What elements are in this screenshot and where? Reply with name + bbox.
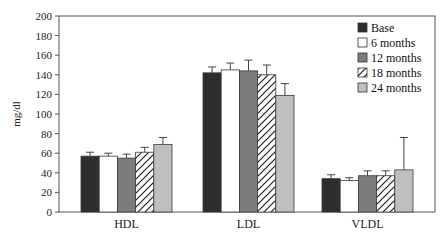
bar-chart: 020406080100120140160180200 HDLLDLVLDL B… — [0, 0, 443, 236]
bar-ldl-18-months — [258, 75, 276, 212]
y-tick-label: 0 — [47, 206, 53, 218]
bar-hdl-24-months — [154, 144, 172, 212]
y-tick-label: 80 — [41, 128, 53, 140]
y-tick-label: 60 — [41, 147, 53, 159]
bar-ldl-base — [203, 73, 221, 212]
bar-ldl-24-months — [276, 95, 294, 212]
legend-label: 24 months — [371, 81, 422, 95]
bar-vldl-18-months — [377, 176, 395, 212]
legend-label: 6 months — [371, 36, 416, 50]
bar-vldl-6-months — [340, 181, 358, 212]
legend-swatch — [358, 23, 367, 32]
x-category-label: VLDL — [352, 217, 384, 231]
x-category-label: LDL — [237, 217, 260, 231]
bar-hdl-6-months — [99, 156, 117, 212]
legend-swatch — [358, 68, 367, 77]
bar-vldl-base — [322, 179, 340, 212]
y-tick-label: 160 — [36, 49, 53, 61]
y-tick-label: 180 — [36, 30, 53, 42]
legend-swatch — [358, 38, 367, 47]
bar-hdl-18-months — [136, 152, 154, 212]
y-tick-label: 20 — [41, 186, 53, 198]
x-category-label: HDL — [114, 217, 139, 231]
legend-label: Base — [371, 21, 394, 35]
bar-vldl-12-months — [358, 176, 376, 212]
bar-vldl-24-months — [395, 170, 413, 212]
y-tick-label: 100 — [36, 108, 53, 120]
bar-hdl-12-months — [117, 158, 135, 212]
y-axis-label: mg/dl — [10, 101, 22, 127]
legend-swatch — [358, 53, 367, 62]
legend-label: 18 months — [371, 66, 422, 80]
y-tick-label: 40 — [41, 167, 53, 179]
legend-swatch — [358, 83, 367, 92]
y-tick-label: 200 — [36, 10, 53, 22]
bar-ldl-6-months — [221, 70, 239, 212]
y-tick-label: 140 — [36, 69, 53, 81]
bar-hdl-base — [81, 156, 99, 212]
legend-label: 12 months — [371, 51, 422, 65]
bar-ldl-12-months — [239, 71, 257, 212]
y-tick-label: 120 — [36, 88, 53, 100]
